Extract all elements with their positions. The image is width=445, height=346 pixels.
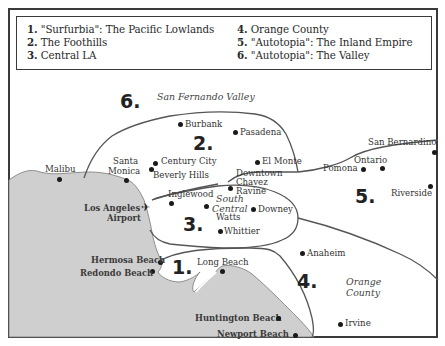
place-el-monte: El Monte — [262, 156, 302, 166]
santa-monica-dot — [124, 178, 129, 183]
el-monte-dot — [255, 160, 260, 165]
area-label-orange: Orange — [346, 276, 381, 287]
place-ontario: Ontario — [354, 155, 387, 165]
malibu-dot — [57, 177, 62, 182]
legend-item-1: 1. "Surfurbia": The Pacific Lowlands — [27, 23, 214, 36]
place-hermosa-beach: Hermosa Beach — [91, 255, 165, 265]
watts-dot — [204, 204, 209, 209]
place-watts: Watts — [216, 212, 241, 222]
pomona-dot — [361, 167, 366, 172]
anaheim-dot — [300, 251, 305, 256]
place-irvine: Irvine — [345, 318, 371, 328]
legend-item-4: 4. Orange County — [237, 23, 412, 36]
huntington-beach-dot — [276, 316, 281, 321]
region-number-5: 5. — [355, 185, 375, 207]
inglewood-dot — [169, 201, 174, 206]
place-newport-beach: Newport Beach — [217, 329, 289, 339]
legend-item-5: 5. "Autotopia": The Inland Empire — [237, 36, 412, 49]
place-redondo-beach: Redondo Beach — [80, 268, 153, 278]
airport-icon: ✈ — [141, 201, 150, 214]
map-legend: 1. "Surfurbia": The Pacific Lowlands 2. … — [16, 16, 432, 70]
place-century-city: Century City — [161, 156, 217, 166]
pasadena-dot — [233, 130, 238, 135]
area-label-san-fernando-valley: San Fernando Valley — [157, 91, 255, 102]
region-number-4: 4. — [297, 270, 317, 292]
place-pasadena: Pasadena — [240, 127, 281, 137]
place-anaheim: Anaheim — [307, 248, 345, 258]
place-lax-1: Los Angeles — [84, 203, 140, 213]
ontario-dot — [380, 166, 385, 171]
place-santa-monica-1: Santa — [113, 156, 138, 166]
place-downey: Downey — [258, 204, 293, 214]
place-huntington-beach: Huntington Beach — [195, 313, 282, 323]
place-whittier: Whittier — [224, 226, 260, 236]
region-number-3: 3. — [183, 213, 203, 235]
burbank-dot — [178, 122, 183, 127]
long-beach-dot — [220, 269, 225, 274]
place-san-bernardino: San Bernardino — [368, 137, 437, 147]
place-ravine: Ravine — [236, 186, 266, 196]
place-pomona: Pomona — [323, 163, 358, 173]
place-santa-monica-2: Monica — [108, 166, 140, 176]
place-riverside: Riverside — [391, 188, 432, 198]
ocean — [9, 170, 314, 337]
place-burbank: Burbank — [185, 119, 222, 129]
legend-column-right: 4. Orange County 5. "Autotopia": The Inl… — [237, 23, 412, 62]
newport-beach-dot — [293, 333, 298, 338]
legend-item-6: 6. "Autotopia": The Valley — [237, 49, 412, 62]
whittier-dot — [218, 229, 223, 234]
downey-dot — [251, 207, 256, 212]
place-malibu: Malibu — [45, 164, 75, 174]
place-long-beach: Long Beach — [197, 257, 249, 267]
san-bernardino-dot — [432, 150, 437, 155]
region-number-2: 2. — [193, 132, 213, 154]
chavez-ravine-dot — [228, 186, 233, 191]
legend-item-3: 3. Central LA — [27, 49, 214, 62]
century-city-dot — [153, 161, 158, 166]
legend-item-2: 2. The Foothills — [27, 36, 214, 49]
region-number-1: 1. — [172, 256, 192, 278]
area-label-county: County — [346, 287, 380, 298]
place-beverly-hills: Beverly Hills — [153, 170, 209, 180]
irvine-dot — [338, 322, 343, 327]
region-number-6: 6. — [120, 90, 140, 112]
place-lax-2: Airport — [107, 213, 141, 223]
place-inglewood: Inglewood — [168, 189, 213, 199]
legend-column-left: 1. "Surfurbia": The Pacific Lowlands 2. … — [27, 23, 214, 62]
